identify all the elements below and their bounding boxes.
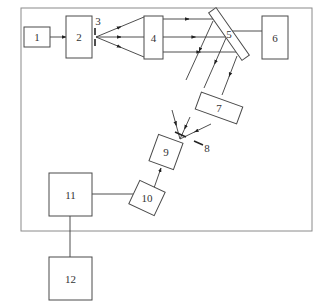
- optical-system-diagram: 1245679101112 38: [0, 0, 313, 304]
- block-label: 10: [142, 192, 154, 204]
- annotation-8: 8: [204, 142, 210, 154]
- arrow-icon: [215, 60, 217, 64]
- arrow-icon: [229, 73, 230, 77]
- block-label: 5: [226, 28, 232, 40]
- arrow-icon: [199, 48, 201, 52]
- block-2: 2: [66, 16, 92, 58]
- arrow-icon: [185, 125, 187, 129]
- arrow-icon: [117, 46, 121, 48]
- block-10: 10: [129, 180, 165, 215]
- block-4: 4: [144, 16, 163, 59]
- annotation-3: 3: [95, 15, 101, 27]
- block-12: 12: [49, 257, 92, 300]
- block-label: 6: [272, 32, 278, 44]
- connector-10-to-9: [154, 168, 161, 188]
- block-label: 1: [34, 31, 40, 43]
- connector-5-to-7: [204, 38, 226, 88]
- connector-5-to-7: [186, 21, 213, 80]
- block-label: 12: [65, 273, 76, 285]
- block-6: 6: [262, 16, 288, 59]
- block-7: 7: [195, 92, 243, 124]
- connector-5-to-7: [222, 56, 237, 95]
- arrow-icon: [195, 130, 199, 132]
- block-1: 1: [24, 27, 50, 47]
- block-label: 7: [216, 102, 222, 114]
- block-11: 11: [49, 173, 92, 216]
- arrow-icon: [117, 27, 121, 29]
- block-label: 4: [151, 32, 157, 44]
- block-label: 2: [76, 31, 82, 43]
- block-label: 9: [163, 146, 169, 158]
- block-9: 9: [149, 134, 183, 169]
- connector-7-to-8: [172, 110, 180, 139]
- connector-4-to-3: [96, 17, 144, 37]
- connector-4-to-3: [96, 37, 144, 57]
- arrow-icon: [175, 122, 176, 126]
- block-label: 11: [65, 189, 76, 201]
- component-blocks: 1245679101112: [24, 7, 288, 300]
- block-5: 5: [208, 7, 251, 61]
